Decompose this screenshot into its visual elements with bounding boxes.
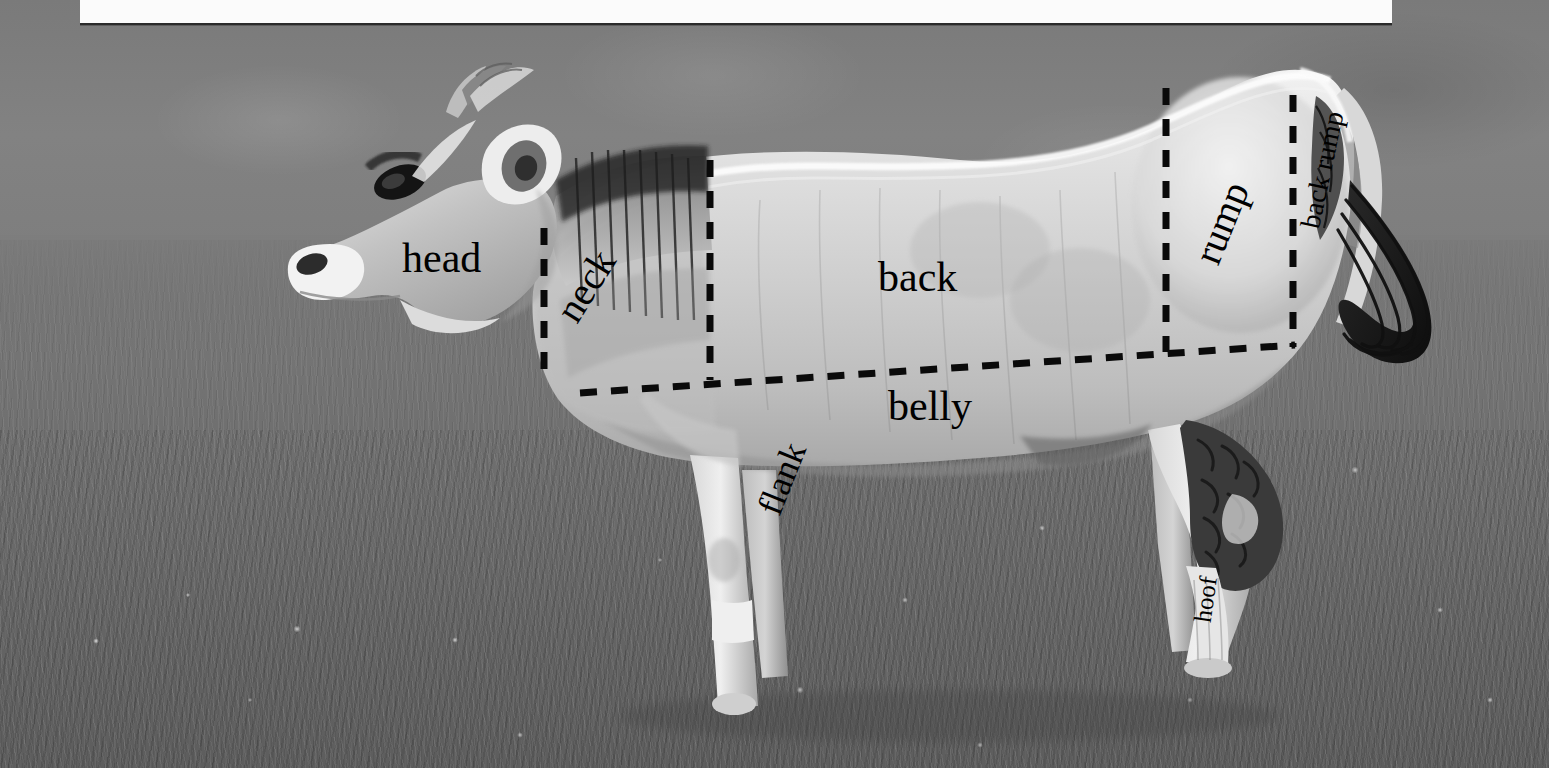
label-head: head	[402, 237, 481, 279]
label-belly: belly	[888, 385, 972, 427]
label-hoof: hoof	[1190, 575, 1221, 624]
label-back: back	[878, 256, 957, 298]
top-white-banner	[80, 0, 1392, 25]
figure-canvas: head neck back rump back rump belly flan…	[0, 0, 1549, 768]
